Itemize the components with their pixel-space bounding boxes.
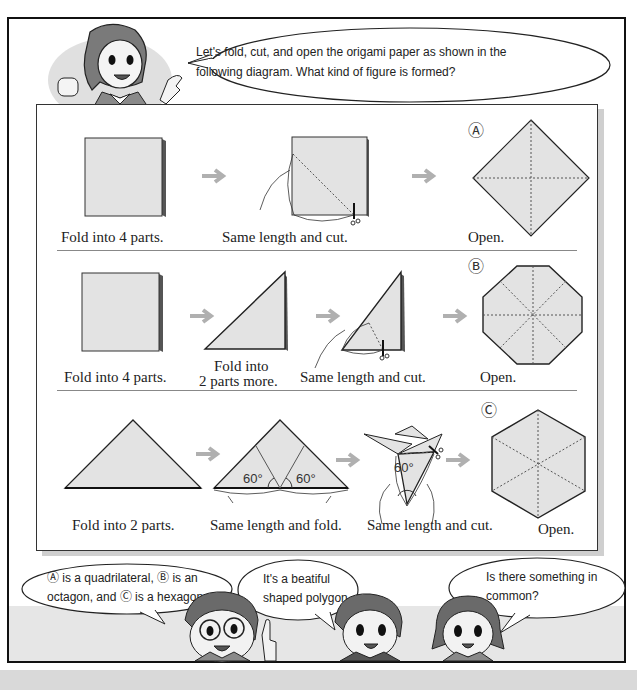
arrow-icon [334,451,364,469]
octagon-result [481,264,585,368]
step-caption: Fold into 4 parts. [61,229,164,246]
square-cut-diagram [250,135,370,225]
step-caption: 2 parts more. [199,373,278,390]
step-caption: Open. [480,369,516,386]
step-caption: Fold into 2 parts. [72,517,175,534]
hexagon-result [490,408,590,520]
square-folded-icon [81,272,165,354]
speech-line: Ⓐ is a quadrilateral, Ⓑ is an [47,569,206,588]
angle-label: 60° [296,471,316,486]
triangle-60-fold-diagram [212,418,352,508]
step-caption: Same length and cut. [300,369,426,386]
row-divider [57,250,577,251]
step-caption: Open. [468,229,504,246]
boy-illustration [330,592,410,661]
speech-line: Is there something in [486,568,597,587]
step-caption: Same length and cut. [367,517,493,534]
step-caption: Same length and cut. [222,229,348,246]
arrow-icon [200,167,230,185]
bottom-strip [0,670,637,690]
square-folded-icon [84,137,168,219]
step-caption: Open. [538,521,574,538]
girl-illustration [428,594,508,661]
row-divider [57,390,577,391]
angle-label: 60° [394,460,414,475]
arrow-icon [441,307,471,325]
step-caption: Same length and fold. [210,517,342,534]
step-caption: Fold into 4 parts. [64,369,167,386]
quadrilateral-result [472,118,592,238]
teacher-speech-line-1: Let's fold, cut, and open the origami pa… [196,42,507,62]
arrow-icon [444,451,474,469]
triangle-half-fold-icon [63,418,203,490]
teacher-speech-text: Let's fold, cut, and open the origami pa… [196,42,507,82]
arrow-icon [410,167,440,185]
speech-line: It's a beatiful [263,570,351,589]
triangle-folded-icon [203,271,293,355]
angle-label: 60° [243,471,263,486]
triangle-cut-diagram [310,270,430,360]
boy-with-glasses-illustration [170,590,280,661]
teacher-speech-line-2: following diagram. What kind of figure i… [196,62,507,82]
